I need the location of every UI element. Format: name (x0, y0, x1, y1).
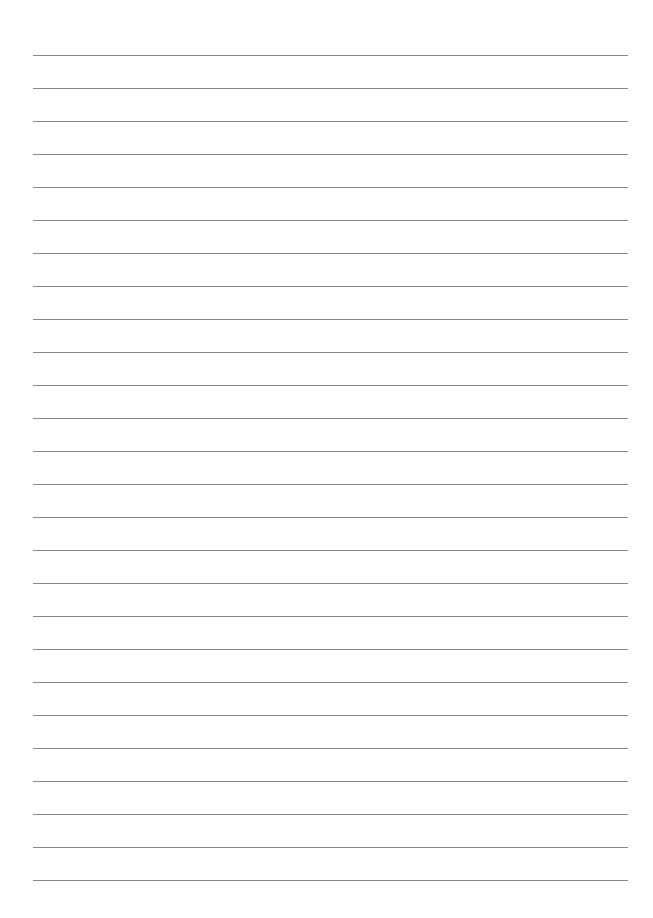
ruled-line (33, 451, 628, 452)
ruled-line (33, 418, 628, 419)
ruled-line (33, 253, 628, 254)
ruled-line (33, 187, 628, 188)
ruled-line (33, 814, 628, 815)
ruled-line (33, 715, 628, 716)
ruled-line (33, 88, 628, 89)
ruled-line (33, 847, 628, 848)
ruled-line (33, 55, 628, 56)
ruled-line (33, 550, 628, 551)
ruled-line (33, 616, 628, 617)
lined-paper-page (0, 0, 653, 918)
ruled-line (33, 583, 628, 584)
ruled-line (33, 352, 628, 353)
ruled-line (33, 781, 628, 782)
ruled-line (33, 517, 628, 518)
ruled-line (33, 286, 628, 287)
ruled-line (33, 682, 628, 683)
ruled-line (33, 880, 628, 881)
ruled-line (33, 154, 628, 155)
ruled-line (33, 748, 628, 749)
ruled-line (33, 385, 628, 386)
ruled-line (33, 121, 628, 122)
ruled-line (33, 649, 628, 650)
ruled-line (33, 319, 628, 320)
ruled-line (33, 484, 628, 485)
ruled-line (33, 220, 628, 221)
